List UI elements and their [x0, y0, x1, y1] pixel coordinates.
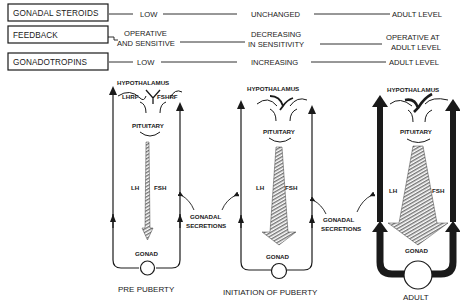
- pre-puberty-value-line1: OPERATIVE: [124, 29, 167, 38]
- adult-value-line1: OPERATIVE AT: [386, 33, 440, 42]
- gonad-label: GONAD: [266, 253, 290, 260]
- feedback-line-left: [377, 104, 383, 222]
- gonadal-secretions-2: GONADAL SECRETIONS: [313, 195, 372, 232]
- gonadal-secretions-1: GONADAL SECRETIONS: [181, 195, 236, 229]
- gonad-label: GONAD: [405, 247, 429, 254]
- lhrf-label: LHRF: [122, 93, 139, 100]
- secretions-line2: SECRETIONS: [186, 222, 226, 229]
- feedback-line-right: [450, 108, 456, 222]
- gonad-circle-icon: [272, 264, 287, 279]
- row-gonadal-steroids: GONADAL STEROIDS LOW UNCHANGED ADULT LEV…: [8, 4, 442, 21]
- adult-value: ADULT LEVEL: [389, 58, 439, 67]
- panel-initiation: HYPOTHALAMUS PITUITARY LH FSH GONAD INIT…: [223, 85, 318, 297]
- initiation-value-line1: DECREASING: [251, 30, 301, 39]
- initiation-value: UNCHANGED: [251, 10, 300, 19]
- gonad-circle-icon: [141, 261, 155, 275]
- hypothalamus-label: HYPOTHALAMUS: [117, 79, 169, 86]
- secretions-line1: GONADAL: [323, 216, 354, 223]
- fshrf-label: FSHRF: [157, 93, 178, 100]
- pre-puberty-value: LOW: [140, 10, 158, 19]
- lh-label: LH: [131, 184, 140, 191]
- arrowhead-up-icon: [445, 99, 460, 111]
- arrowhead-up-icon: [372, 95, 388, 107]
- row-feedback: FEEDBACK OPERATIVE AND SENSITIVE DECREAS…: [8, 26, 441, 52]
- panel-caption: ADULT: [403, 293, 429, 302]
- gonadotropin-arrow: [388, 146, 448, 245]
- pituitary-label: PITUITARY: [400, 128, 433, 135]
- fsh-label: FSH: [432, 187, 445, 194]
- pituitary-shape: [269, 138, 291, 142]
- portal-v-icon: [405, 94, 432, 112]
- initiation-value-line2: IN SENSITIVITY: [248, 40, 304, 49]
- pituitary-label: PITUITARY: [132, 122, 165, 129]
- panel-adult: HYPOTHALAMUS PITUITARY LH FSH GONAD ADUL…: [372, 86, 460, 302]
- pituitary-stalk: [270, 109, 297, 121]
- fsh-label: FSH: [154, 184, 167, 191]
- fsh-label: FSH: [285, 184, 298, 191]
- pre-puberty-value: LOW: [137, 58, 155, 67]
- gonadotropin-arrow: [262, 147, 296, 245]
- panel-caption: PRE PUBERTY: [118, 285, 175, 294]
- hypothalamus-label: HYPOTHALAMUS: [247, 85, 299, 92]
- panel-caption: INITIATION OF PUBERTY: [223, 288, 318, 297]
- adult-value-line2: ADULT LEVEL: [391, 43, 441, 52]
- arrowhead-up-icon: [308, 105, 316, 114]
- initiation-value: INCREASING: [251, 58, 298, 67]
- arrowhead-up-icon: [109, 86, 117, 95]
- pituitary-shape: [407, 139, 430, 143]
- pituitary-shape: [140, 132, 160, 136]
- puberty-diagram: GONADAL STEROIDS LOW UNCHANGED ADULT LEV…: [0, 0, 460, 303]
- hypothalamus-label: HYPOTHALAMUS: [387, 86, 439, 93]
- gonad-circle-icon: [404, 261, 432, 289]
- secretions-line1: GONADAL: [190, 213, 221, 220]
- arrowhead-up-icon: [176, 102, 184, 111]
- row-label: GONADAL STEROIDS: [13, 9, 99, 18]
- pituitary-label: PITUITARY: [263, 128, 296, 135]
- arrowhead-up-icon: [237, 100, 245, 109]
- panel-pre-puberty: HYPOTHALAMUS LHRF FSHRF PITUITARY LH FSH…: [109, 79, 184, 294]
- row-label: GONADOTROPINS: [13, 58, 88, 67]
- row-gonadotropins: GONADOTROPINS LOW INCREASING ADULT LEVEL: [8, 53, 439, 70]
- lh-label: LH: [389, 187, 398, 194]
- row-label: FEEDBACK: [13, 31, 58, 40]
- pre-puberty-value-line2: AND SENSITIVE: [117, 39, 175, 48]
- pituitary-stalk: [408, 110, 432, 122]
- gonad-label: GONAD: [135, 250, 159, 257]
- lh-label: LH: [256, 184, 265, 191]
- secretions-line2: SECRETIONS: [321, 225, 361, 232]
- adult-value: ADULT LEVEL: [392, 10, 442, 19]
- gonadotropin-arrow: [142, 142, 153, 240]
